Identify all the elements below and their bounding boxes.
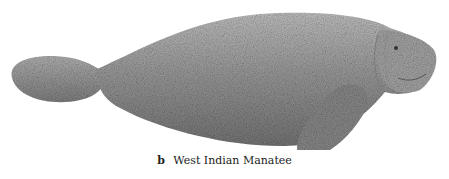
caption-text: West Indian Manatee: [173, 154, 292, 167]
figure-caption: b West Indian Manatee: [0, 154, 449, 167]
manatee-eye: [394, 46, 398, 50]
tail-fluke: [12, 56, 105, 102]
caption-label: b: [157, 154, 165, 167]
manatee-illustration: [0, 0, 449, 150]
